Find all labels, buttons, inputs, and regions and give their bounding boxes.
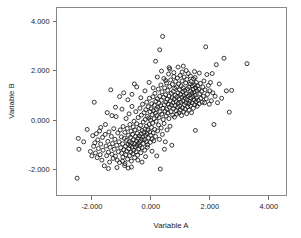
y-tick-label: 0.000 (31, 116, 50, 125)
x-tick-label: 2.000 (201, 202, 220, 211)
y-tick-label: 4.000 (31, 17, 50, 26)
y-tick-label: -2.000 (29, 165, 50, 174)
x-tick-label: 4.000 (260, 202, 279, 211)
plot-canvas: -2.0000.0002.0004.000 -2.0000.0002.0004.… (0, 0, 301, 238)
y-axis-label: Variable B (7, 83, 16, 118)
x-tick-label: -2.000 (81, 202, 102, 211)
x-axis-label: Variable A (154, 221, 190, 230)
scatter-plot-figure: -2.0000.0002.0004.000 -2.0000.0002.0004.… (0, 0, 301, 238)
x-tick-label: 0.000 (142, 202, 161, 211)
y-tick-label: 2.000 (31, 66, 50, 75)
